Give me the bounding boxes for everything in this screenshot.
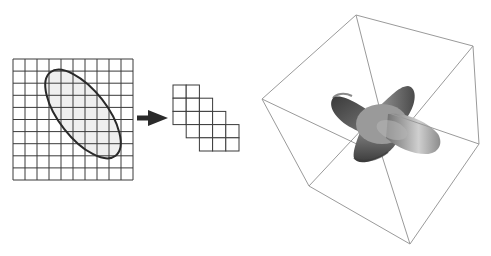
voxel-cells-panel (173, 85, 239, 151)
voxel-cell (213, 125, 226, 138)
voxel-cell (213, 111, 226, 124)
cube-panel (262, 15, 479, 244)
voxelization-diagram (0, 0, 491, 256)
continuous-grid-panel (13, 57, 135, 180)
voxel-cell (173, 85, 186, 98)
voxel-cell (213, 138, 226, 151)
arrow-icon (137, 110, 168, 126)
voxel-cell (199, 125, 212, 138)
voxel-cell (199, 111, 212, 124)
voxel-cell (186, 111, 199, 124)
voxel-cell (199, 98, 212, 111)
voxel-cell (199, 138, 212, 151)
voxel-cell (173, 98, 186, 111)
voxel-cell (186, 98, 199, 111)
voxel-cell (226, 138, 239, 151)
voxel-cell (186, 85, 199, 98)
voxel-cell (186, 125, 199, 138)
voxel-cell (226, 125, 239, 138)
voxel-cell (173, 111, 186, 124)
voxelized-cross-shape (331, 86, 440, 162)
